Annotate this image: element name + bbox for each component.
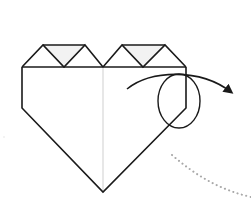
dotted-arc: [172, 155, 251, 197]
fold-arrow: [127, 74, 231, 92]
right-flap-shade: [122, 45, 165, 67]
left-flap-shade: [43, 45, 85, 67]
origami-heart-diagram: [0, 0, 251, 210]
focus-circle: [158, 74, 200, 128]
faint-mark: [3, 136, 5, 138]
